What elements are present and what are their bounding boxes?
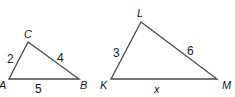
- triangle-abc-shape: [9, 42, 79, 79]
- triangle-abc: A C B 2 4 5: [0, 28, 87, 96]
- vertex-k-label: K: [100, 79, 108, 91]
- vertex-a-label: A: [0, 79, 6, 91]
- side-cb-label: 4: [57, 51, 64, 65]
- triangle-klm: K L M 3 6 x: [100, 7, 232, 95]
- triangle-klm-shape: [111, 22, 217, 79]
- similar-triangles-diagram: A C B 2 4 5 K L M 3 6 x: [0, 0, 235, 97]
- vertex-l-label: L: [137, 7, 143, 19]
- vertex-b-label: B: [80, 79, 87, 91]
- vertex-c-label: C: [24, 28, 32, 40]
- side-km-label: x: [153, 83, 160, 95]
- side-kl-label: 3: [113, 46, 120, 60]
- side-ac-label: 2: [7, 52, 14, 66]
- vertex-m-label: M: [222, 79, 232, 91]
- side-ab-label: 5: [35, 82, 42, 96]
- side-lm-label: 6: [187, 44, 194, 58]
